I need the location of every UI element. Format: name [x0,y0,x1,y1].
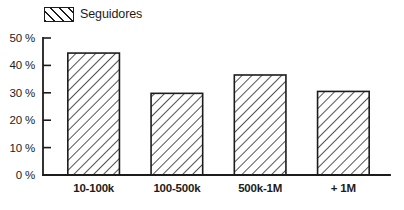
bar [151,93,203,175]
x-axis-tick-label: 10-100k [73,182,115,194]
x-axis: 10-100k100-500k500k-1M+ 1M [43,175,390,194]
y-axis-tick-label: 20 % [10,114,35,126]
y-axis-tick-label: 0 % [16,169,35,181]
y-axis-tick-label: 30 % [10,87,35,99]
bar-chart-figure: Seguidores 0 %10 %20 %30 %40 %50 % 10-10… [0,0,404,210]
y-axis: 0 %10 %20 %30 %40 %50 % [10,32,51,181]
plot-area: 0 %10 %20 %30 %40 %50 % 10-100k100-500k5… [0,0,404,210]
y-axis-tick-label: 40 % [10,59,35,71]
bar [318,91,370,175]
y-axis-tick-label: 50 % [10,32,35,44]
x-axis-tick-label: 500k-1M [238,182,282,194]
x-axis-tick-label: + 1M [331,182,356,194]
y-axis-tick-label: 10 % [10,142,35,154]
bar-series-seguidores [68,53,369,175]
x-axis-tick-label: 100-500k [153,182,201,194]
bar [234,75,286,175]
bar [68,53,120,175]
